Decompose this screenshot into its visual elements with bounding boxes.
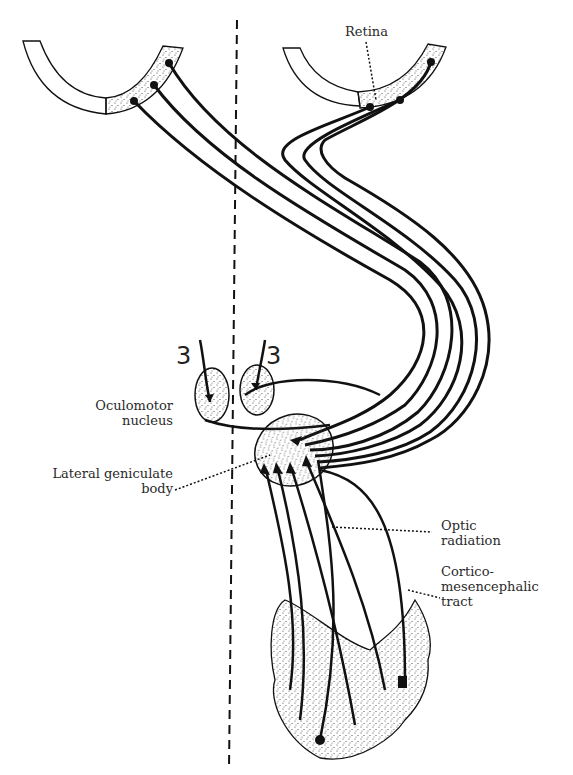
label-oculomotor-line2: nucleus: [60, 413, 173, 428]
label-cortico-line3: tract: [441, 594, 539, 609]
lateral-geniculate-body: [243, 401, 345, 498]
label-optic-radiation: Optic radiation: [441, 518, 501, 548]
label-oculomotor-line1: Oculomotor: [60, 398, 173, 413]
label-retina: Retina: [345, 24, 388, 39]
left-eye-retina: [22, 41, 183, 114]
uncrossed-fibers: [283, 62, 489, 468]
label-lateral-geniculate-body: Lateral geniculate body: [20, 466, 173, 496]
label-oculomotor-nucleus: Oculomotor nucleus: [60, 398, 173, 428]
label-lgb-line1: Lateral geniculate: [20, 466, 173, 481]
optic-radiation-leader: [332, 527, 432, 532]
label-optic-line1: Optic: [441, 518, 501, 533]
label-optic-line2: radiation: [441, 533, 501, 548]
visual-pathway-diagram: Retina 3 3 Oculomotor nucleus Lateral ge…: [0, 0, 573, 775]
label-nerve-3-right: 3: [266, 342, 281, 370]
label-cortico-line2: mesencephalic: [441, 579, 539, 594]
label-cortico-line1: Cortico-: [441, 564, 539, 579]
right-eye-retina: [283, 44, 446, 108]
cortico-tract-leader: [408, 590, 440, 598]
label-cortico-mesencephalic-tract: Cortico- mesencephalic tract: [441, 564, 539, 609]
label-lgb-line2: body: [20, 481, 173, 496]
diagram-drawing: [0, 0, 573, 775]
label-nerve-3-left: 3: [176, 342, 191, 370]
crossing-fibers: [134, 63, 452, 450]
